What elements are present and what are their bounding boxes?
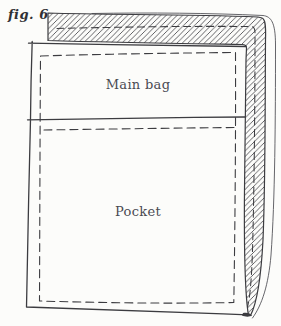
gusset-stitch-line xyxy=(57,26,255,307)
main-bag-label: Main bag xyxy=(32,77,244,92)
bag-sewing-diagram xyxy=(0,0,281,326)
gusset-hatched-band xyxy=(48,13,266,316)
pocket-label: Pocket xyxy=(32,204,244,219)
pocket-stitch-line xyxy=(44,128,234,131)
figure-page: fig. 6 Main bag Pocket xyxy=(0,0,281,326)
